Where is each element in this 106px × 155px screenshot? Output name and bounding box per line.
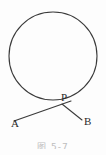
point-label-p: P	[61, 92, 67, 103]
geometry-canvas	[0, 0, 106, 155]
circle-shape	[9, 12, 97, 100]
segment-pb-line	[62, 104, 82, 120]
point-label-b: B	[84, 116, 91, 127]
figure-caption: 图 5-7	[0, 142, 106, 149]
point-label-a: A	[11, 118, 19, 129]
geometry-figure: A B P 图 5-7	[0, 0, 106, 155]
